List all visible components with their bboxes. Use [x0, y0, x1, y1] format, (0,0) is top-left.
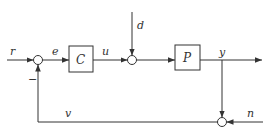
label-e: e	[52, 45, 59, 58]
label-block-P: P	[182, 51, 192, 65]
block-diagram: r e C u d P y n v −	[0, 0, 269, 135]
label-y: y	[218, 46, 226, 59]
label-block-C: C	[76, 53, 85, 67]
label-u: u	[102, 45, 109, 58]
label-v: v	[65, 107, 72, 120]
label-r: r	[10, 45, 16, 58]
summing-junction-2	[128, 56, 137, 65]
label-n: n	[247, 107, 254, 120]
summing-junction-3	[218, 118, 227, 127]
feedback-minus-sign: −	[28, 73, 37, 86]
label-d: d	[137, 19, 144, 32]
summing-junction-1	[34, 56, 43, 65]
